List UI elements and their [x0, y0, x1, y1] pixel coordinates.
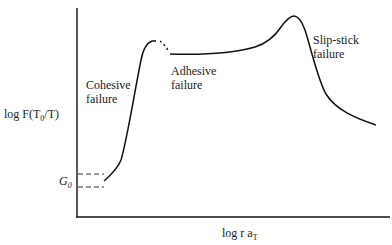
- x-axis-label-subscript: T: [253, 233, 258, 242]
- g0-symbol: G: [59, 174, 68, 188]
- region-label-cohesive-line1: Cohesive: [86, 78, 131, 92]
- region-label-slipstick-line2: failure: [313, 47, 359, 61]
- region-label-adhesive: Adhesive failure: [171, 64, 216, 92]
- y-axis-label-main: log F(T: [4, 107, 40, 121]
- g0-subscript: 0: [68, 181, 72, 190]
- curve-transition-dotted: [160, 41, 169, 52]
- x-axis-label-main: log r a: [222, 226, 253, 240]
- region-label-slipstick-line1: Slip-stick: [313, 33, 359, 47]
- region-label-adhesive-line1: Adhesive: [171, 64, 216, 78]
- x-axis-label: log r aT: [222, 226, 258, 245]
- region-label-slipstick: Slip-stick failure: [313, 33, 359, 61]
- region-label-adhesive-line2: failure: [171, 78, 216, 92]
- region-label-cohesive-line2: failure: [86, 92, 131, 106]
- y-axis-label: log F(T0/T): [4, 107, 59, 126]
- curve-cohesive-segment: [104, 41, 156, 181]
- y-axis-label-tail: /T): [44, 107, 59, 121]
- region-label-cohesive: Cohesive failure: [86, 78, 131, 106]
- g0-label: G0: [59, 174, 72, 193]
